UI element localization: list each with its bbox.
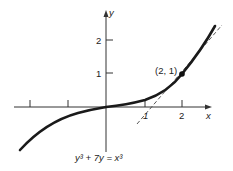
- diagram-canvas: (2, 1) 1 2 1 2 x y y³ + 7y = x³: [0, 0, 233, 171]
- y-tick-label-2: 2: [96, 35, 101, 46]
- y-tick-label-1b: 1: [143, 110, 148, 121]
- point-marker: [179, 71, 185, 77]
- y-tick-label-1: 1: [96, 68, 101, 79]
- x-axis-label: x: [205, 110, 212, 121]
- x-axis-arrow-icon: [205, 105, 212, 110]
- point-label: (2, 1): [155, 65, 177, 76]
- x-tick-label-2: 2: [179, 110, 184, 121]
- curve: [20, 26, 215, 150]
- y-axis-label: y: [108, 7, 115, 18]
- equation-label: y³ + 7y = x³: [74, 152, 123, 163]
- y-axis-arrow-icon: [104, 10, 109, 17]
